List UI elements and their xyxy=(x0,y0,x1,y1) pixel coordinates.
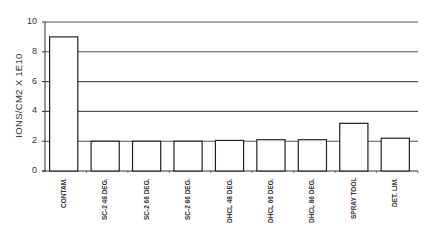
bar xyxy=(133,141,161,171)
bar xyxy=(298,140,326,171)
x-tick-label: DHCL 66 DEG. xyxy=(267,178,274,223)
bar xyxy=(91,141,119,171)
y-tick-label: 0 xyxy=(23,165,37,175)
x-tick-label: SC-2 66 DEG. xyxy=(143,178,150,220)
x-tick-label: DHCL 48 DEG. xyxy=(226,178,233,223)
y-axis-label: IONS/CM2 X 1E10 xyxy=(13,36,24,156)
bar xyxy=(381,138,409,171)
x-tick-label: DET. LIM. xyxy=(391,178,398,207)
y-tick-label: 6 xyxy=(23,76,37,86)
y-tick-label: 10 xyxy=(23,16,37,26)
bar xyxy=(174,141,202,171)
x-tick-label: SPRAY TOOL xyxy=(350,178,357,219)
bar xyxy=(215,140,243,171)
y-tick-label: 2 xyxy=(23,135,37,145)
y-tick-label: 4 xyxy=(23,105,37,115)
x-tick-label: SC-2 48 DEG. xyxy=(101,178,108,220)
y-tick-label: 8 xyxy=(23,46,37,56)
bar xyxy=(50,37,78,171)
bar xyxy=(257,140,285,171)
x-tick-label: CONTAM. xyxy=(60,178,67,208)
x-tick-label: DHCL 86 DEG. xyxy=(308,178,315,223)
bar xyxy=(340,123,368,171)
x-tick-label: SC-2 86 DEG. xyxy=(184,178,191,220)
